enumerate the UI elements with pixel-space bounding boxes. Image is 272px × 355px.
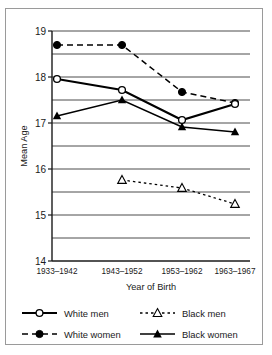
point-white-women-2 [178, 88, 185, 95]
y-axis-title: Mean Age [19, 125, 29, 166]
line-chart: 19 18 17 16 15 14 Mean Age 1933–1942 194… [0, 0, 272, 355]
legend-label-white-women: White women [64, 329, 121, 340]
point-white-men-2 [179, 117, 186, 124]
y-tick-label-15: 15 [35, 210, 47, 221]
point-white-women-0 [53, 41, 60, 48]
legend-label-black-men: Black men [182, 308, 226, 319]
legend-marker-open-triangle-icon [153, 309, 162, 317]
legend-item-black-women[interactable]: Black women [140, 329, 238, 340]
y-tick-label-18: 18 [35, 72, 47, 83]
y-tick-label-17: 17 [35, 118, 47, 129]
point-black-women-1 [118, 96, 126, 104]
x-tick-label-2: 1953–1962 [162, 267, 203, 276]
y-tick-label-19: 19 [35, 26, 47, 37]
x-tick-label-3: 1963–1967 [215, 267, 256, 276]
chart-legend: White men Black men White women Black wo… [22, 308, 238, 340]
legend-label-white-men: White men [64, 308, 109, 319]
legend-label-black-women: Black women [182, 329, 238, 340]
gridlines [52, 31, 250, 238]
x-tick-label-0: 1933–1942 [37, 267, 78, 276]
legend-marker-open-circle-icon [36, 310, 43, 317]
legend-item-white-women[interactable]: White women [22, 329, 121, 340]
x-axis-title: Year of Birth [126, 282, 176, 292]
y-tick-label-16: 16 [35, 164, 47, 175]
point-white-men-3 [232, 101, 239, 108]
series-black-women-line [57, 100, 235, 132]
series-white-women [53, 41, 238, 106]
point-black-men-3 [231, 200, 240, 208]
figure-container: 19 18 17 16 15 14 Mean Age 1933–1942 194… [0, 0, 272, 355]
legend-item-white-men[interactable]: White men [22, 308, 109, 319]
series-black-men [118, 176, 240, 208]
point-white-women-1 [118, 41, 125, 48]
y-tick-label-14: 14 [35, 256, 47, 267]
point-black-men-1 [118, 176, 127, 184]
legend-item-black-men[interactable]: Black men [140, 308, 226, 319]
point-white-men-0 [54, 76, 61, 83]
x-tick-label-1: 1943–1952 [102, 267, 143, 276]
legend-marker-filled-circle-icon [36, 330, 43, 337]
point-white-men-1 [119, 87, 126, 94]
